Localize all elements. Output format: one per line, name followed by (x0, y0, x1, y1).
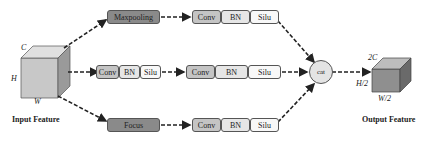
conv-block: Conv (192, 10, 221, 24)
diagram-canvas: C H W Input Feature Maxpooling Conv BN S… (0, 0, 428, 141)
bn-block: BN (221, 118, 250, 132)
conv-block: Conv (192, 118, 221, 132)
output-cube-front (372, 69, 400, 92)
silu-block: Silu (250, 118, 279, 132)
conv-bn-silu-bottom: Conv BN Silu (192, 118, 279, 132)
input-cube-front (21, 58, 58, 98)
output-dim-c: 2C (368, 53, 377, 62)
output-dim-h: H/2 (356, 79, 368, 88)
conv-block: Conv (186, 65, 215, 79)
concat-node: cat (309, 60, 333, 84)
arrow-top-to-cat (278, 21, 314, 62)
input-dim-h: H (11, 74, 17, 83)
output-feature-caption: Output Feature (362, 115, 415, 124)
bn-block: BN (215, 65, 248, 79)
conv-bn-silu-top: Conv BN Silu (192, 10, 279, 24)
silu-block: Silu (140, 65, 161, 79)
maxpooling-block: Maxpooling (107, 10, 160, 24)
input-feature-caption: Input Feature (12, 115, 60, 124)
input-dim-c: C (21, 43, 26, 52)
output-dim-w: W/2 (378, 94, 391, 103)
silu-block: Silu (248, 65, 281, 79)
input-dim-w: W (34, 97, 41, 106)
bn-block: BN (119, 65, 140, 79)
output-feature-cube (372, 58, 411, 92)
input-feature-cube (21, 46, 70, 98)
conv-bn-silu-mid-pre: Conv BN Silu (96, 65, 161, 79)
bn-block: BN (221, 10, 250, 24)
arrow-bottom-to-cat (278, 84, 314, 122)
arrow-input-to-focus (58, 96, 106, 121)
arrow-input-to-maxpooling (64, 20, 106, 48)
conv-block: Conv (96, 65, 119, 79)
conv-bn-silu-mid: Conv BN Silu (186, 65, 281, 79)
focus-block: Focus (107, 118, 160, 132)
silu-block: Silu (250, 10, 279, 24)
